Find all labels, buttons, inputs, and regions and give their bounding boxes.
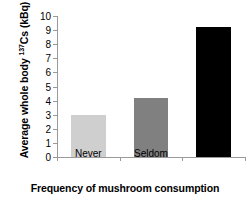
y-axis-tick-label: 5: [45, 81, 51, 92]
y-axis-tick-label: 6: [45, 67, 51, 78]
x-axis-category-label-seldom: Seldom: [134, 148, 168, 159]
y-axis-tick-mark: [53, 143, 57, 144]
y-axis-tick-label: 4: [45, 95, 51, 106]
x-axis-title: Frequency of mushroom consumption: [0, 182, 250, 194]
bar-often[interactable]: [196, 27, 230, 157]
y-axis-tick-mark: [53, 101, 57, 102]
plot-area: 012345678910: [57, 16, 245, 157]
y-axis-tick-label: 0: [45, 152, 51, 163]
y-axis-title-prefix: Average whole body: [18, 56, 30, 159]
y-axis-tick-mark: [53, 16, 57, 17]
y-axis-tick-mark: [53, 58, 57, 59]
x-axis-tick-mark: [182, 157, 183, 161]
bar-chart-figure: Average whole body 137Cs (kBq) 012345678…: [0, 0, 250, 203]
y-axis-tick-label: 7: [45, 53, 51, 64]
x-axis-tick-mark: [120, 157, 121, 161]
x-axis-tick-mark: [57, 157, 58, 161]
y-axis-title-suffix: Cs (kBq): [18, 2, 30, 44]
y-axis-tick-mark: [53, 72, 57, 73]
x-axis-category-label-never: Never: [75, 148, 102, 159]
y-axis-tick-label: 3: [45, 109, 51, 120]
y-axis-tick-label: 9: [45, 25, 51, 36]
y-axis-tick-mark: [53, 129, 57, 130]
x-axis-tick-mark: [245, 157, 246, 161]
y-axis-tick-label: 1: [45, 137, 51, 148]
y-axis-title-superscript: 137: [18, 44, 25, 55]
y-axis-title: Average whole body 137Cs (kBq): [16, 0, 32, 160]
y-axis-line: [57, 16, 58, 157]
y-axis-tick-mark: [53, 30, 57, 31]
y-axis-tick-label: 8: [45, 39, 51, 50]
y-axis-tick-mark: [53, 87, 57, 88]
y-axis-tick-mark: [53, 44, 57, 45]
y-axis-tick-mark: [53, 115, 57, 116]
y-axis-tick-label: 10: [40, 11, 51, 22]
y-axis-tick-label: 2: [45, 123, 51, 134]
x-axis-category-label-often: Often: [201, 148, 225, 159]
